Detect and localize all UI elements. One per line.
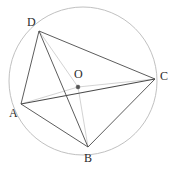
segment-AB	[21, 104, 88, 147]
radius-OB	[78, 87, 88, 147]
geometry-figure: A B C D O	[0, 0, 174, 170]
center-label-O: O	[74, 68, 83, 80]
vertex-label-C: C	[160, 70, 168, 82]
center-point-dot	[76, 85, 80, 89]
vertex-label-D: D	[27, 16, 36, 28]
vertex-label-A: A	[9, 107, 18, 119]
vertex-label-B: B	[84, 152, 92, 164]
segment-DA	[21, 31, 39, 104]
segment-AC	[21, 79, 155, 104]
